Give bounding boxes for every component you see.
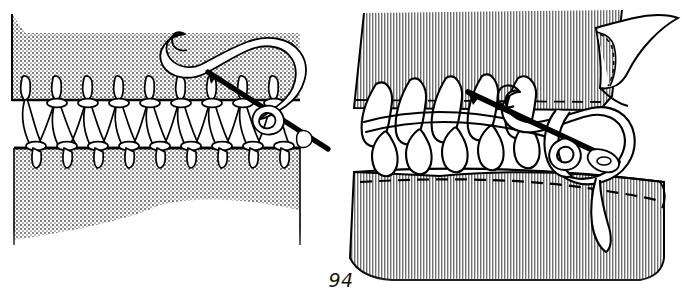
right-lower-fabric	[350, 172, 665, 280]
lower-stitch-tabs	[32, 148, 290, 168]
upper-stitch-tabs	[21, 76, 279, 100]
figure-root: 94	[0, 0, 682, 298]
page-number: 94	[328, 269, 353, 291]
stitch-illustration: 94	[0, 0, 682, 298]
